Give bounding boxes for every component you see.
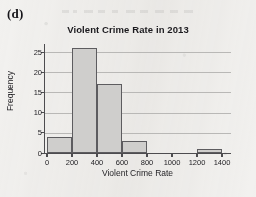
figure-panel: (d) Violent Crime Rate in 2013 051015202…: [0, 0, 256, 197]
x-axis-tick: [121, 153, 122, 157]
x-axis-tick-label: 1200: [184, 158, 210, 167]
y-axis-line: [44, 44, 45, 154]
x-axis-tick: [96, 153, 97, 157]
histogram-bar: [47, 137, 72, 153]
x-axis-tick: [171, 153, 172, 157]
y-axis-tick-label: 0: [22, 149, 42, 158]
y-axis-tick-label: 25: [22, 48, 42, 57]
histogram-plot: 0510152025 0200400600800100012001400 Fre…: [0, 0, 256, 197]
histogram-bar: [122, 141, 147, 153]
x-axis-label: Violent Crime Rate: [44, 168, 231, 178]
x-axis-tick-label: 600: [109, 158, 135, 167]
x-axis-tick-label: 0: [34, 158, 60, 167]
x-axis-tick: [146, 153, 147, 157]
x-axis-tick: [46, 153, 47, 157]
y-axis-tick-label: 15: [22, 88, 42, 97]
x-axis-tick-label: 400: [84, 158, 110, 167]
y-axis-label: Frequency: [5, 60, 15, 122]
x-axis-tick-label: 1000: [159, 158, 185, 167]
x-axis-tick: [221, 153, 222, 157]
x-axis-tick: [71, 153, 72, 157]
y-axis-tick-label: 10: [22, 108, 42, 117]
y-axis-tick-label: 5: [22, 128, 42, 137]
x-axis-tick-label: 800: [134, 158, 160, 167]
x-axis-tick-label: 200: [59, 158, 85, 167]
x-axis-tick-label: 1400: [209, 158, 235, 167]
histogram-bar: [72, 48, 97, 153]
x-axis-tick: [196, 153, 197, 157]
histogram-bar: [97, 84, 122, 153]
y-axis-tick-label: 20: [22, 68, 42, 77]
